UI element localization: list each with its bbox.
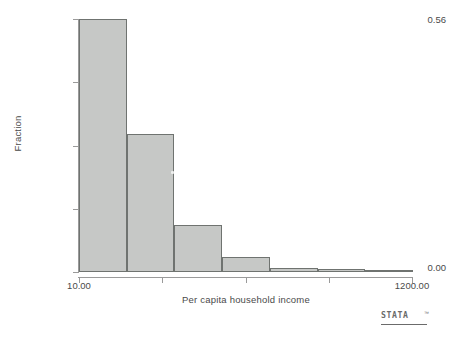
x-axis-tick — [329, 278, 330, 283]
histogram-bar — [318, 269, 366, 272]
plot-area — [79, 19, 413, 272]
logo-underline — [381, 324, 427, 325]
x-tick-label-min: 10.00 — [39, 280, 119, 291]
histogram-bar — [127, 134, 175, 272]
chart-title — [79, 1, 413, 9]
x-axis-tick — [162, 278, 163, 283]
histogram-bar — [365, 270, 413, 272]
trademark-icon: ™ — [424, 310, 429, 316]
plot-artifact-speck — [171, 171, 174, 174]
stata-logo: STATA ™ — [381, 311, 428, 325]
stata-wordmark: STATA — [381, 311, 409, 320]
histogram-bar — [174, 225, 222, 272]
x-axis-tick — [246, 278, 247, 283]
histogram-bar — [79, 19, 127, 272]
histogram-bar — [222, 257, 270, 272]
x-axis-title: Per capita household income — [79, 294, 413, 305]
x-tick-label-max: 1200.00 — [372, 280, 451, 291]
y-axis-title: Fraction — [12, 99, 23, 169]
histogram-bar — [270, 268, 318, 272]
